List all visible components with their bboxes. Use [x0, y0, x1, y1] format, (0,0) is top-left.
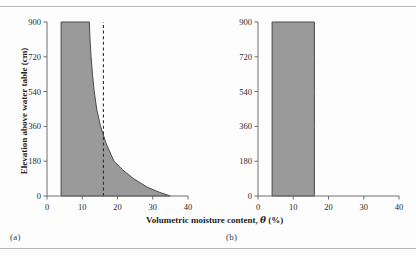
- y-tick-label: 0: [248, 191, 252, 201]
- y-tick-label: 180: [28, 156, 41, 166]
- panel-caption-b: (b): [226, 232, 237, 242]
- y-axis-title-text: Elevation above water table (cm): [19, 48, 29, 174]
- y-tick-label: 900: [239, 17, 252, 27]
- series-area-a: [61, 22, 170, 196]
- plot-panel-b: 0102030400180360540720900: [239, 17, 403, 212]
- y-tick-label: 540: [239, 87, 252, 97]
- y-tick-label: 0: [37, 191, 41, 201]
- y-axis-title: Elevation above water table (cm): [19, 31, 29, 191]
- x-tick-label: 30: [360, 202, 369, 212]
- x-tick-label: 0: [45, 202, 49, 212]
- series-area-b: [272, 22, 314, 196]
- x-tick-label: 10: [78, 202, 87, 212]
- panel-caption-a: (a): [10, 232, 21, 242]
- x-tick-label: 30: [149, 202, 158, 212]
- y-tick-label: 360: [28, 121, 41, 131]
- x-axis-title-prefix: Volumetric moisture content,: [146, 215, 260, 225]
- x-tick-label: 10: [289, 202, 298, 212]
- x-tick-label: 40: [395, 202, 404, 212]
- y-tick-label: 720: [28, 52, 41, 62]
- x-tick-label: 20: [324, 202, 333, 212]
- x-tick-label: 40: [184, 202, 193, 212]
- plot-panel-a: 0102030400180360540720900: [28, 17, 192, 212]
- x-tick-label: 0: [256, 202, 260, 212]
- x-axis-title-suffix: (%): [266, 215, 283, 225]
- figure-container: 0102030400180360540720900010203040018036…: [0, 0, 416, 256]
- x-axis-title: Volumetric moisture content, θ (%): [146, 215, 283, 225]
- y-tick-label: 900: [28, 17, 41, 27]
- y-tick-label: 540: [28, 87, 41, 97]
- y-tick-label: 720: [239, 52, 252, 62]
- y-tick-label: 180: [239, 156, 252, 166]
- x-tick-label: 20: [113, 202, 122, 212]
- y-tick-label: 360: [239, 121, 252, 131]
